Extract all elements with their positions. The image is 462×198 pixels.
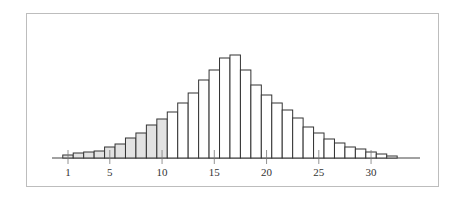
histogram-bar: [167, 112, 177, 158]
histogram-bar: [345, 147, 355, 158]
histogram-bar: [178, 103, 188, 158]
histogram-bar: [146, 125, 156, 158]
histogram-bar: [261, 95, 271, 158]
x-tick-label: 10: [157, 166, 169, 178]
histogram-bar: [220, 58, 230, 158]
bars-group: [63, 55, 397, 158]
histogram-bar: [324, 139, 334, 158]
histogram-bar: [209, 70, 219, 158]
histogram-bar: [240, 70, 250, 158]
x-tick-label: 30: [366, 166, 378, 178]
x-tick-label: 25: [313, 166, 325, 178]
x-tick-label: 1: [65, 166, 71, 178]
x-tick-label: 5: [107, 166, 113, 178]
histogram-bar: [303, 127, 313, 158]
histogram-bar: [376, 154, 386, 158]
histogram-chart: 151015202530: [0, 0, 462, 198]
histogram-bar: [387, 156, 397, 158]
histogram-bar: [94, 151, 104, 158]
histogram-bar: [73, 153, 83, 158]
histogram-bar: [251, 85, 261, 158]
histogram-bar: [230, 55, 240, 158]
histogram-bar: [115, 144, 125, 158]
histogram-bar: [199, 80, 209, 158]
histogram-bar: [293, 118, 303, 158]
histogram-bar: [282, 110, 292, 158]
x-tick-label: 15: [209, 166, 221, 178]
histogram-bar: [125, 138, 135, 158]
x-tick-label: 20: [261, 166, 273, 178]
histogram-bar: [136, 133, 146, 158]
histogram-bar: [84, 152, 94, 158]
histogram-bar: [272, 103, 282, 158]
histogram-bar: [334, 143, 344, 158]
histogram-bar: [355, 149, 365, 158]
histogram-bar: [188, 93, 198, 158]
